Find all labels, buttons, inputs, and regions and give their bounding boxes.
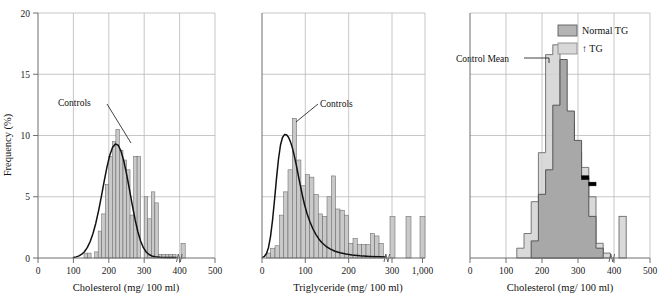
x-tick-left-300: 300 bbox=[137, 266, 152, 276]
y-tick-20: 20 bbox=[21, 9, 31, 19]
x-tick-mid-100: 100 bbox=[298, 266, 313, 276]
outlier-bar-650 bbox=[406, 216, 411, 258]
figure-container: Frequency (%) bbox=[0, 0, 664, 302]
legend-label-normal-tg: Normal TG bbox=[582, 25, 628, 36]
highlight-segment bbox=[582, 176, 589, 180]
x-tick-left-500: 500 bbox=[208, 266, 223, 276]
x-axis-title-right: Cholesterol (mg/ 100 ml) bbox=[507, 282, 614, 294]
highlight-segment-2 bbox=[589, 182, 596, 186]
three-panel-histogram-figure: Frequency (%) bbox=[0, 0, 664, 302]
outlier-bar-1000 bbox=[420, 216, 425, 258]
legend-swatch-high-tg bbox=[558, 43, 577, 54]
y-tick-15: 15 bbox=[21, 70, 31, 80]
series-high-tg-outlier-400 bbox=[619, 216, 626, 258]
x-tick-left-0: 0 bbox=[36, 266, 41, 276]
annotation-control-mean: Control Mean bbox=[456, 54, 509, 64]
x-tick-left-200: 200 bbox=[102, 266, 117, 276]
x-tick-right-200: 200 bbox=[535, 266, 550, 276]
legend-swatch-normal-tg bbox=[558, 25, 577, 36]
x-tick-mid-300: 300 bbox=[385, 266, 400, 276]
y-tick-0: 0 bbox=[25, 254, 30, 264]
x-tick-mid-1000: 1,000 bbox=[412, 266, 434, 276]
x-tick-left-400: 400 bbox=[172, 266, 187, 276]
annotation-controls-middle: Controls bbox=[320, 99, 353, 109]
annotation-controls-left: Controls bbox=[58, 98, 91, 108]
y-axis-title: Frequency (%) bbox=[2, 113, 14, 176]
y-tick-5: 5 bbox=[25, 192, 30, 202]
x-axis-title-left: Cholesterol (mg/ 100 ml) bbox=[73, 282, 180, 294]
x-axis-title-middle: Triglyceride (mg/ 100 ml) bbox=[293, 282, 403, 294]
outlier-bar-300 bbox=[390, 216, 395, 258]
x-tick-right-400: 400 bbox=[607, 266, 622, 276]
x-tick-mid-0: 0 bbox=[260, 266, 265, 276]
x-tick-right-300: 300 bbox=[571, 266, 586, 276]
legend-label-high-tg: ↑ TG bbox=[582, 43, 603, 54]
x-tick-right-500: 500 bbox=[643, 266, 658, 276]
x-tick-left-100: 100 bbox=[66, 266, 81, 276]
x-tick-mid-200: 200 bbox=[342, 266, 357, 276]
y-tick-10: 10 bbox=[21, 131, 31, 141]
x-tick-right-0: 0 bbox=[468, 266, 473, 276]
x-tick-right-100: 100 bbox=[499, 266, 514, 276]
